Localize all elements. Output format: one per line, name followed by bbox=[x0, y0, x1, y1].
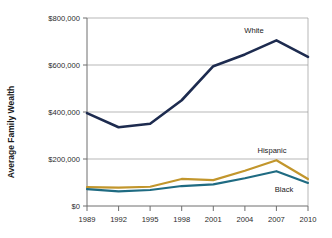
x-tick-label: 1989 bbox=[79, 215, 96, 224]
x-tick-label: 1998 bbox=[173, 215, 190, 224]
series-label-black: Black bbox=[275, 185, 294, 194]
chart-container: Average Family Wealth $800,000 $600,000 … bbox=[0, 0, 332, 238]
gridlines bbox=[87, 18, 308, 159]
y-tick-labels: $800,000 $600,000 $400,000 $200,000 $0 bbox=[48, 14, 80, 211]
y-tick-label: $200,000 bbox=[48, 155, 80, 164]
x-tick-label: 1992 bbox=[110, 215, 127, 224]
line-chart: Average Family Wealth $800,000 $600,000 … bbox=[0, 0, 332, 238]
y-axis-title: Average Family Wealth bbox=[6, 86, 16, 179]
series-label-white: White bbox=[244, 26, 263, 35]
y-tick-label: $800,000 bbox=[48, 14, 80, 23]
y-tick-label: $400,000 bbox=[48, 108, 80, 117]
x-tick-label: 2001 bbox=[205, 215, 222, 224]
x-tick-label: 1995 bbox=[142, 215, 159, 224]
x-tick-marks bbox=[87, 206, 308, 211]
x-tick-label: 2010 bbox=[300, 215, 317, 224]
series-line-white bbox=[87, 40, 308, 127]
x-tick-label: 2007 bbox=[268, 215, 285, 224]
series-lines bbox=[87, 40, 308, 191]
x-tick-labels: 1989 1992 1995 1998 2001 2004 2007 2010 bbox=[79, 215, 317, 224]
series-line-hispanic bbox=[87, 160, 308, 187]
y-tick-label: $600,000 bbox=[48, 61, 80, 70]
series-label-hispanic: Hispanic bbox=[257, 146, 286, 155]
y-tick-label: $0 bbox=[72, 202, 80, 211]
x-tick-label: 2004 bbox=[236, 215, 253, 224]
y-tick-marks bbox=[83, 18, 87, 206]
